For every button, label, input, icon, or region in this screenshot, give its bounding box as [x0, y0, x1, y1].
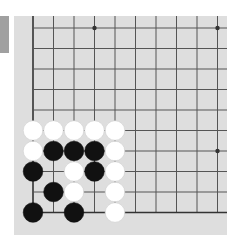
white-stone[interactable]: [105, 162, 125, 182]
black-stone[interactable]: [44, 182, 64, 202]
black-stone[interactable]: [64, 141, 84, 161]
white-stone[interactable]: [64, 121, 84, 141]
white-stone[interactable]: [23, 121, 43, 141]
white-stone[interactable]: [23, 141, 43, 161]
star-point: [92, 26, 96, 30]
black-stone[interactable]: [44, 141, 64, 161]
board-grid[interactable]: [0, 0, 244, 250]
white-stone[interactable]: [64, 162, 84, 182]
white-stone[interactable]: [105, 182, 125, 202]
white-stone[interactable]: [105, 141, 125, 161]
black-stone[interactable]: [85, 162, 105, 182]
star-point: [215, 149, 219, 153]
star-point: [215, 26, 219, 30]
black-stone[interactable]: [64, 203, 84, 223]
white-stone[interactable]: [64, 182, 84, 202]
black-stone[interactable]: [23, 203, 43, 223]
white-stone[interactable]: [44, 121, 64, 141]
black-stone[interactable]: [23, 162, 43, 182]
white-stone[interactable]: [85, 121, 105, 141]
white-stone[interactable]: [105, 203, 125, 223]
white-stone[interactable]: [105, 121, 125, 141]
black-stone[interactable]: [85, 141, 105, 161]
